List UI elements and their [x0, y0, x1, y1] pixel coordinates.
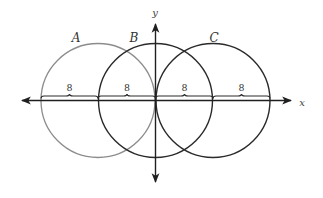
circle-a-label: A [71, 31, 81, 45]
brace-1 [41, 94, 98, 99]
circle-c-label: C [209, 31, 218, 45]
segment-label-3: 8 [182, 81, 188, 93]
brace-2 [98, 94, 156, 99]
segment-label-1: 8 [67, 81, 73, 93]
circle-b-label: B [129, 31, 139, 45]
brace-3 [156, 94, 214, 99]
segment-label-4: 8 [239, 81, 245, 93]
three-circles-diagram: 8 8 8 8 A B C y x [0, 0, 323, 198]
brace-4 [213, 94, 270, 99]
y-axis-label: y [151, 7, 158, 18]
x-axis-label: x [299, 97, 305, 108]
segment-label-2: 8 [124, 81, 130, 93]
